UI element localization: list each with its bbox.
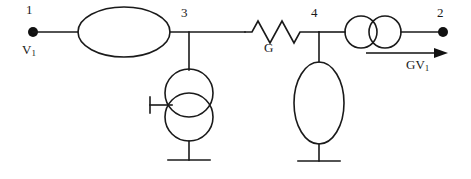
node-label-4: 4 xyxy=(311,6,318,19)
output-current-arrow-head xyxy=(434,48,448,58)
input-voltage-subscript: 1 xyxy=(31,48,36,58)
input-voltage-symbol: V xyxy=(22,42,31,57)
shunt4-ellipse-symbol xyxy=(294,62,344,144)
conductance-label: G xyxy=(264,41,273,54)
terminal-dot-node-2 xyxy=(438,27,448,37)
dependent-source-left-circle xyxy=(345,16,377,48)
dependent-source-symbol: GV xyxy=(406,57,425,72)
circuit-diagram: 1 V1 3 4 2 G GV1 xyxy=(0,0,471,179)
left-ellipse-source-symbol xyxy=(78,7,170,57)
input-voltage-label: V1 xyxy=(22,43,36,56)
resistor-g-zigzag xyxy=(245,21,319,43)
dependent-source-subscript: 1 xyxy=(425,63,430,73)
node-label-1: 1 xyxy=(26,3,33,16)
node-label-2: 2 xyxy=(437,6,444,19)
dependent-source-right-circle xyxy=(369,16,401,48)
circuit-schematic-canvas xyxy=(0,0,471,179)
dependent-source-label: GV1 xyxy=(406,58,429,71)
node-label-3: 3 xyxy=(181,6,188,19)
